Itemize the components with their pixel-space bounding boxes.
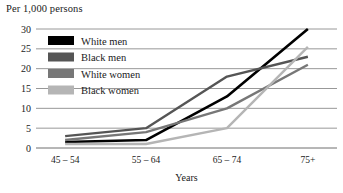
x-axis-tick-label: 55 – 64 [132,155,161,165]
y-axis-tick-label: 0 [26,143,31,154]
y-axis-tick-label: 20 [21,63,31,74]
legend-swatch [48,69,74,78]
legend-label: White women [81,69,141,80]
y-axis-tick-label: 25 [21,43,31,54]
legend-label: Black women [81,85,140,96]
legend-label: Black men [81,52,127,63]
legend-swatch [48,36,74,45]
y-axis-tick-label: 15 [21,83,31,94]
chart-figure: Per 1,000 persons 05101520253045 – 5455 … [0,0,343,193]
x-axis-tick-label: 45 – 54 [51,155,80,165]
x-axis-tick-label: 65 – 74 [213,155,242,165]
y-axis-tick-label: 10 [21,103,31,114]
y-axis-tick-label: 30 [21,24,31,35]
y-axis-tick-label: 5 [26,123,31,134]
legend-entry: White women [48,69,141,80]
legend-entry: White men [48,36,128,47]
x-axis-tick-label: 75+ [300,155,315,165]
line-chart-plot: 05101520253045 – 5455 – 6465 – 7475+Year… [0,0,343,193]
legend-entry: Black women [48,85,140,96]
legend-swatch [48,53,74,62]
x-axis-title: Years [175,172,197,183]
legend-swatch [48,86,74,95]
legend-entry: Black men [48,52,127,63]
legend-label: White men [81,36,128,47]
